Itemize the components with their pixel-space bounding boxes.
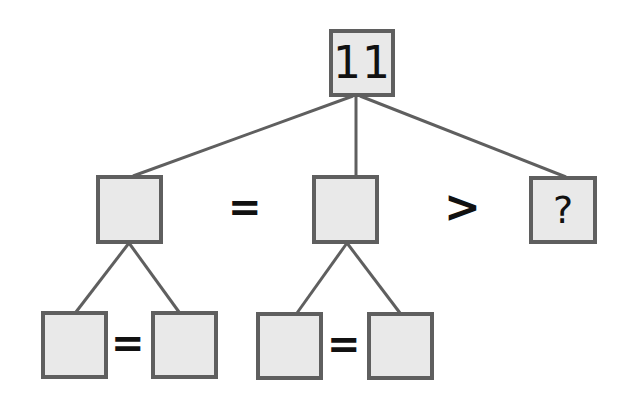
leaf-node-1 <box>41 311 108 379</box>
middle-left-node <box>96 175 163 244</box>
root-node: 11 <box>329 29 395 97</box>
leaf-node-2 <box>151 311 218 379</box>
greater-than-sign: > <box>444 185 481 229</box>
edge-mid_left-to-leaf_2 <box>129 243 179 312</box>
edge-mid_left-to-leaf_1 <box>76 243 129 312</box>
edge-mid_center-to-leaf_4 <box>347 243 400 313</box>
middle-center-node <box>312 175 379 244</box>
edge-mid_center-to-leaf_3 <box>297 243 347 313</box>
leaf-left-equals-sign: = <box>111 323 145 363</box>
leaf-node-3 <box>256 312 323 380</box>
tree-diagram: 11 ? = > = = <box>0 0 629 406</box>
leaf-node-4 <box>367 312 434 380</box>
leaf-right-equals-sign: = <box>327 324 361 364</box>
edge-root-to-mid_right <box>360 96 566 177</box>
edge-root-to-mid_left <box>133 96 353 176</box>
unknown-value: ? <box>553 191 573 229</box>
middle-equals-sign: = <box>228 187 262 227</box>
unknown-node: ? <box>529 176 597 244</box>
root-value: 11 <box>333 41 391 85</box>
